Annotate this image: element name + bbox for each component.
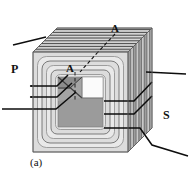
figure-caption: (a): [30, 157, 42, 168]
core-front-face: [33, 52, 128, 152]
label-section-a-top: A: [111, 23, 119, 34]
label-primary-winding: P: [11, 63, 18, 75]
label-section-a-mid: A: [66, 63, 74, 74]
label-secondary-winding: S: [163, 109, 170, 121]
transformer-core-diagram: [0, 0, 190, 186]
primary-winding-dots: [30, 85, 32, 98]
